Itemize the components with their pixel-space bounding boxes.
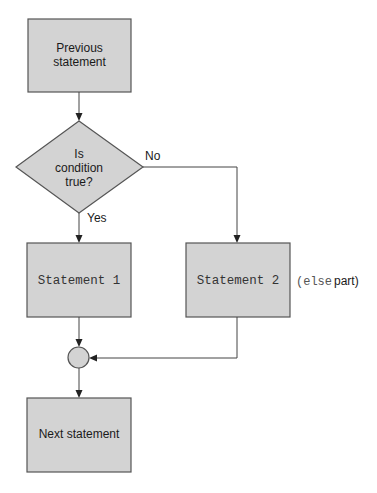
previous-statement-label-line2: statement — [53, 55, 106, 69]
decision-node: Is condition true? — [16, 121, 143, 213]
statement-2-label: Statement 2 — [197, 274, 280, 288]
edge-previous-to-decision — [76, 92, 83, 121]
no-branch-label: No — [145, 149, 161, 163]
arrow-left-icon — [89, 355, 97, 362]
next-statement-node: Next statement — [27, 398, 131, 472]
arrow-down-icon — [76, 390, 83, 398]
arrow-down-icon — [234, 235, 241, 243]
previous-statement-label-line1: Previous — [56, 41, 103, 55]
decision-label-line2: condition — [55, 161, 103, 175]
edge-no-branch: No — [143, 149, 241, 243]
else-part-label: part) — [334, 274, 359, 288]
statement-1-node: Statement 1 — [27, 243, 131, 317]
edge-join-to-next — [76, 368, 83, 398]
next-statement-label: Next statement — [39, 427, 120, 441]
else-keyword-label: (else — [296, 275, 332, 289]
edge-statement1-to-join — [76, 317, 83, 347]
statement-1-label: Statement 1 — [38, 274, 121, 288]
flowchart-diagram: Previous statement Is condition true? No… — [0, 0, 377, 493]
statement-2-node: Statement 2 — [186, 243, 290, 317]
edge-yes-branch: Yes — [76, 211, 107, 243]
arrow-down-icon — [76, 235, 83, 243]
previous-statement-node: Previous statement — [28, 19, 131, 92]
join-connector-circle — [68, 347, 89, 368]
edge-statement2-to-join — [89, 317, 237, 362]
decision-label-line1: Is — [74, 147, 83, 161]
decision-label-line3: true? — [65, 175, 93, 189]
else-part-annotation: (else part) — [296, 274, 359, 289]
yes-branch-label: Yes — [87, 211, 107, 225]
arrow-down-icon — [76, 339, 83, 347]
arrow-down-icon — [76, 113, 83, 121]
